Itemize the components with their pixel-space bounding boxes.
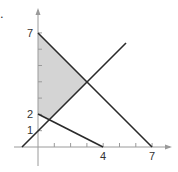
x-label-4: 4	[100, 150, 106, 162]
graph: 7 2 1 4 7	[0, 0, 178, 172]
y-label-7: 7	[27, 27, 33, 39]
x-label-7: 7	[149, 150, 155, 162]
y-label-1: 1	[27, 124, 33, 136]
line-x-plus-2y-eq-4	[38, 114, 103, 147]
x-axis-arrow-icon	[165, 145, 172, 150]
y-label-2: 2	[27, 108, 33, 120]
y-axis-arrow-icon	[36, 8, 41, 15]
